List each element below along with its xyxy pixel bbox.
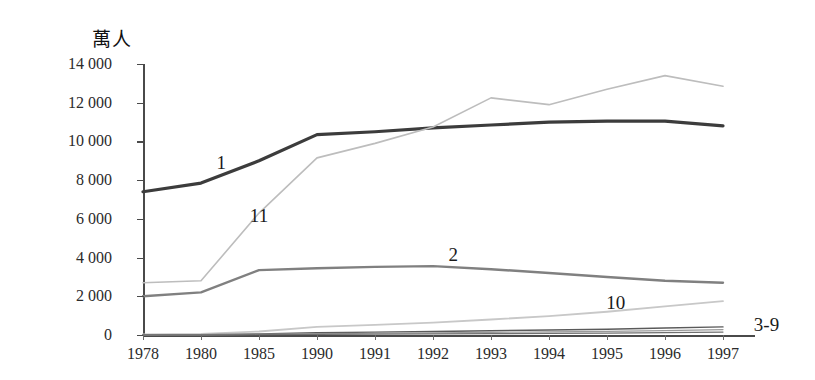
series-line-2 — [143, 266, 723, 296]
x-tick-label: 1980 — [185, 345, 217, 363]
x-axis-tick — [259, 335, 260, 340]
series-annotation-2: 2 — [449, 244, 459, 266]
series-lines — [118, 55, 815, 340]
x-axis-tick — [549, 335, 550, 340]
x-axis-tick — [607, 335, 608, 340]
x-axis-tick — [143, 335, 144, 340]
y-tick-label: 8 000 — [30, 171, 112, 189]
x-tick-label: 1995 — [591, 345, 623, 363]
y-tick-label: 14 000 — [30, 55, 112, 73]
plot-area — [118, 55, 815, 340]
y-axis-tick — [137, 180, 144, 181]
x-axis-tick — [665, 335, 666, 340]
y-axis-tick — [137, 141, 144, 142]
y-tick-label: 2 000 — [30, 287, 112, 305]
y-axis-tick-labels: 02 0004 0006 0008 00010 00012 00014 000 — [30, 0, 112, 380]
x-tick-label: 1990 — [301, 345, 333, 363]
x-tick-label: 1978 — [127, 345, 159, 363]
x-tick-label: 1994 — [533, 345, 565, 363]
x-tick-label: 1993 — [475, 345, 507, 363]
series-line-1 — [143, 121, 723, 192]
y-axis-tick — [137, 296, 144, 297]
series-annotation-11: 11 — [250, 205, 268, 227]
x-tick-label: 1997 — [707, 345, 739, 363]
x-axis-tick — [201, 335, 202, 340]
x-tick-label: 1985 — [243, 345, 275, 363]
y-axis-tick — [137, 219, 144, 220]
y-tick-label: 12 000 — [30, 94, 112, 112]
y-axis-tick — [137, 258, 144, 259]
y-tick-label: 4 000 — [30, 249, 112, 267]
x-tick-label: 1996 — [649, 345, 681, 363]
x-tick-label: 1992 — [417, 345, 449, 363]
x-tick-label: 1991 — [359, 345, 391, 363]
line-chart: 萬人 02 0004 0006 0008 00010 00012 00014 0… — [0, 0, 815, 380]
x-axis-tick — [723, 335, 724, 340]
series-annotation-3-9: 3-9 — [754, 314, 779, 336]
x-axis-tick — [491, 335, 492, 340]
y-axis-tick — [137, 64, 144, 65]
y-tick-label: 0 — [30, 326, 112, 344]
y-tick-label: 10 000 — [30, 132, 112, 150]
y-tick-label: 6 000 — [30, 210, 112, 228]
x-axis-tick — [375, 335, 376, 340]
series-line-10 — [143, 301, 723, 334]
series-annotation-1: 1 — [217, 152, 227, 174]
y-axis-tick — [137, 103, 144, 104]
series-line-11 — [143, 76, 723, 283]
x-axis-tick — [317, 335, 318, 340]
series-annotation-10: 10 — [606, 292, 625, 314]
x-axis-tick — [433, 335, 434, 340]
